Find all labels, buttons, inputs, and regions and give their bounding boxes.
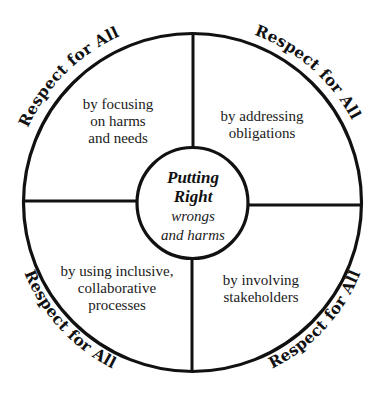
center-title-line2: Right xyxy=(173,187,214,206)
restorative-justice-wheel: Putting Right wrongs and harms by focusi… xyxy=(0,0,386,398)
quadrant-text-line: and needs xyxy=(88,130,148,146)
quadrant-top-left: by focusing on harms and needs xyxy=(83,96,154,146)
quadrant-text-line: on harms xyxy=(90,113,146,129)
quadrant-top-right: by addressing obligations xyxy=(221,108,304,141)
quadrant-text-line: by focusing xyxy=(83,96,154,112)
center-sub-line1: wrongs xyxy=(171,208,215,224)
center-sub-line2: and harms xyxy=(161,227,225,243)
quadrant-text-line: by using inclusive, xyxy=(61,263,174,279)
quadrant-bottom-left: by using inclusive, collaborative proces… xyxy=(61,263,174,313)
quadrant-text-line: stakeholders xyxy=(224,289,299,305)
quadrant-text-line: collaborative xyxy=(78,280,157,296)
center-label: Putting Right wrongs and harms xyxy=(161,168,225,243)
center-title-line1: Putting xyxy=(166,168,219,187)
quadrant-text-line: by involving xyxy=(223,272,300,288)
quadrant-bottom-right: by involving stakeholders xyxy=(223,272,300,305)
quadrant-text-line: processes xyxy=(88,297,146,313)
quadrant-text-line: obligations xyxy=(229,125,296,141)
quadrant-text-line: by addressing xyxy=(221,108,304,124)
